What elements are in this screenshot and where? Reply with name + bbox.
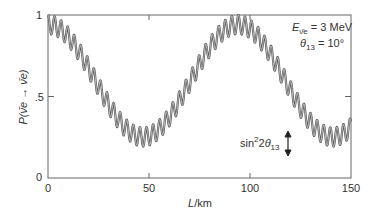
- x-tick-label-50: 50: [143, 182, 155, 194]
- x-ticks: [149, 15, 250, 178]
- x-axis-title: L/km: [188, 197, 212, 209]
- y-axis-title-text: P(ν̄e → ν̄e): [17, 69, 29, 124]
- theta-annotation: θ13 = 10°: [300, 37, 344, 52]
- theta-value: = 10°: [315, 37, 344, 49]
- amp-sub: 13: [271, 143, 280, 152]
- x-tick-label-0: 0: [45, 182, 51, 194]
- y-axis-title: P(ν̄e → ν̄e): [17, 69, 29, 124]
- amplitude-annotation: sin22θ13: [240, 135, 280, 152]
- x-axis-title-unit: /km: [194, 197, 212, 209]
- chart: 1 .5 0 0 50 100 150 L/km P(ν̄e → ν̄e) Eν…: [0, 0, 375, 212]
- x-tick-label-150: 150: [342, 182, 360, 194]
- energy-value: = 3 MeV: [308, 21, 353, 33]
- y-tick-label-0: 0: [36, 171, 42, 183]
- y-tick-label-1: 1: [36, 9, 42, 21]
- amp-sin: sin: [240, 137, 254, 149]
- y-tick-label-05: .5: [35, 91, 44, 103]
- double-arrow-icon: [285, 131, 291, 156]
- energy-annotation: Eν̄e = 3 MeV: [292, 21, 353, 36]
- x-tick-label-100: 100: [241, 182, 259, 194]
